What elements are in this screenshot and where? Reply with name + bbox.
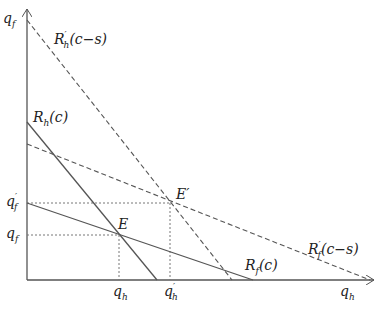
rf-c-line xyxy=(27,203,253,280)
equilibrium-e-prime-label: E′ xyxy=(175,186,190,202)
rh-c-line xyxy=(27,122,157,280)
x-axis-label: qh xyxy=(340,283,355,302)
equilibrium-e-label: E xyxy=(117,216,128,232)
qf-label: qf xyxy=(6,225,20,244)
rf-c-label: Rf(c) xyxy=(244,257,278,276)
rh-c-label: Rh(c) xyxy=(32,109,68,128)
rh-cs-line xyxy=(27,20,232,280)
qh-prime-label: q′h xyxy=(164,282,178,302)
qf-prime-label: q′f xyxy=(6,192,19,212)
y-axis-label: qf xyxy=(3,10,17,29)
rf-cs-label: R′f(c−s) xyxy=(307,240,359,260)
qh-label: qh xyxy=(113,283,128,302)
rh-cs-label: R′h(c−s) xyxy=(53,30,107,50)
reaction-function-diagram: qf qh R′h(c−s) Rh(c) Rf(c) R′f(c−s) E E′… xyxy=(0,0,386,310)
